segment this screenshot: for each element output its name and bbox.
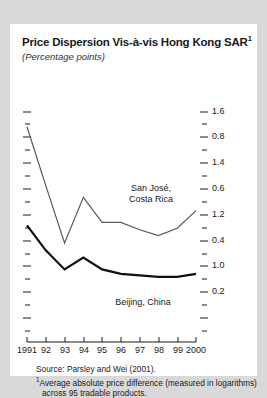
y-axis-left-ticks <box>23 112 31 318</box>
x-tick-label-94: 94 <box>74 345 94 355</box>
page-title: Price Dispersion Vis-à-vis Hong Kong SAR… <box>22 34 252 48</box>
chart-subtitle: (Percentage points) <box>22 51 105 62</box>
x-tick-label-92: 92 <box>36 345 56 355</box>
title-text: Price Dispersion Vis-à-vis Hong Kong SAR <box>22 36 248 48</box>
y-tick-label-7: 0.4 <box>212 235 225 245</box>
figure-note: Source: Parsley and Wei (2001). 1Average… <box>36 364 264 398</box>
x-tick-label-93: 93 <box>55 345 75 355</box>
y-tick-label-1: 1.6 <box>212 106 225 116</box>
series-line-beijing <box>27 225 196 276</box>
chart-plot-area: 1.6 1.4 1.2 1.0 0.8 0.6 0.4 0.2 1991 92 … <box>10 68 257 358</box>
y-axis-right-ticks <box>200 112 208 318</box>
y-tick-label-2: 1.4 <box>212 157 225 167</box>
y-tick-label-6: 0.6 <box>212 183 225 193</box>
series-label-beijing: Beijing, China <box>100 297 186 308</box>
y-tick-label-4: 1.0 <box>212 260 225 270</box>
series-label-san-jose-line2: Costa Rica <box>129 194 173 204</box>
y-tick-label-3: 1.2 <box>212 209 225 219</box>
y-axis-right-minor-ticks <box>202 124 207 331</box>
x-tick-label-2000: 2000 <box>183 345 209 355</box>
source-line: Source: Parsley and Wei (2001). <box>36 364 264 375</box>
figure-panel: Price Dispersion Vis-à-vis Hong Kong SAR… <box>10 24 257 376</box>
series-label-beijing-line1: Beijing, China <box>115 297 171 307</box>
series-label-san-jose: San José, Costa Rica <box>119 183 183 205</box>
title-footnote-marker: 1 <box>248 34 252 43</box>
y-tick-label-8: 0.2 <box>212 286 225 296</box>
x-tick-label-95: 95 <box>92 345 112 355</box>
series-label-san-jose-line1: San José, <box>131 183 171 193</box>
x-tick-label-98: 98 <box>149 345 169 355</box>
x-tick-label-96: 96 <box>111 345 131 355</box>
footnote-line: 1Average absolute price difference (meas… <box>36 375 264 398</box>
x-axis-ticks <box>27 337 196 342</box>
footnote-text: Average absolute price difference (measu… <box>40 377 257 398</box>
y-tick-label-5: 0.8 <box>212 131 225 141</box>
x-tick-label-97: 97 <box>130 345 150 355</box>
